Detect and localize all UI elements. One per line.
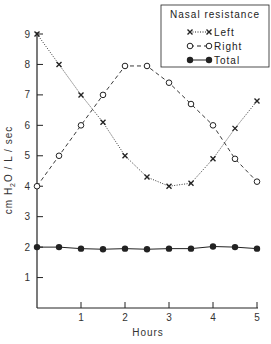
x-tick-label: 1: [78, 312, 84, 323]
axes: 12345678912345: [24, 29, 260, 324]
x-marker-icon: [211, 156, 216, 161]
filled-circle-marker-icon: [210, 243, 216, 249]
x-marker-icon: [233, 126, 238, 131]
filled-circle-marker-icon: [232, 244, 238, 250]
y-tick-label: 3: [24, 211, 30, 222]
series-right: [34, 63, 260, 189]
filled-circle-marker-icon: [187, 57, 193, 63]
open-circle-marker-icon: [144, 63, 150, 69]
filled-circle-marker-icon: [78, 245, 84, 251]
legend-title: Nasal resistance: [170, 9, 260, 20]
filled-circle-marker-icon: [166, 245, 172, 251]
x-tick-label: 5: [254, 312, 260, 323]
open-circle-marker-icon: [78, 123, 84, 129]
filled-circle-marker-icon: [206, 57, 212, 63]
filled-circle-marker-icon: [188, 245, 194, 251]
series-total: [34, 243, 260, 252]
open-circle-marker-icon: [100, 92, 106, 98]
y-tick-label: 9: [24, 29, 30, 40]
series-line: [37, 66, 257, 186]
x-marker-icon: [79, 92, 84, 97]
nasal-resistance-chart: 12345678912345 Nasal resistanceLeftRight…: [0, 0, 271, 344]
open-circle-marker-icon: [34, 183, 40, 189]
x-tick-label: 3: [166, 312, 172, 323]
open-circle-marker-icon: [188, 101, 194, 107]
x-marker-icon: [145, 175, 150, 180]
x-tick-label: 2: [122, 312, 128, 323]
legend-label-right: Right: [214, 41, 242, 52]
open-circle-marker-icon: [187, 43, 193, 49]
legend-label-left: Left: [214, 27, 235, 38]
x-marker-icon: [57, 62, 62, 67]
x-marker-icon: [167, 184, 172, 189]
open-circle-marker-icon: [232, 156, 238, 162]
open-circle-marker-icon: [56, 153, 62, 159]
filled-circle-marker-icon: [34, 244, 40, 250]
filled-circle-marker-icon: [144, 246, 150, 252]
open-circle-marker-icon: [210, 123, 216, 129]
filled-circle-marker-icon: [56, 244, 62, 250]
legend: Nasal resistanceLeftRightTotal: [161, 5, 269, 67]
y-tick-label: 5: [24, 150, 30, 161]
legend-label-total: Total: [214, 55, 240, 66]
y-tick-label: 8: [24, 59, 30, 70]
open-circle-marker-icon: [166, 80, 172, 86]
y-tick-label: 2: [24, 242, 30, 253]
x-marker-icon: [101, 120, 106, 125]
open-circle-marker-icon: [122, 63, 128, 69]
y-tick-label: 7: [24, 89, 30, 100]
open-circle-marker-icon: [254, 179, 260, 185]
open-circle-marker-icon: [206, 43, 212, 49]
y-tick-label: 4: [24, 181, 30, 192]
x-tick-label: 4: [210, 312, 216, 323]
x-marker-icon: [255, 98, 260, 103]
x-marker-icon: [123, 153, 128, 158]
filled-circle-marker-icon: [122, 245, 128, 251]
y-axis-title: cm H2O / L / sec: [3, 126, 16, 214]
y-tick-label: 6: [24, 120, 30, 131]
filled-circle-marker-icon: [254, 245, 260, 251]
x-axis-title: Hours: [132, 327, 164, 338]
filled-circle-marker-icon: [100, 246, 106, 252]
y-tick-label: 1: [24, 272, 30, 283]
